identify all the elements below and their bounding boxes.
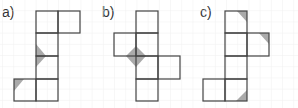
cube-nets-diagram xyxy=(0,0,298,108)
grid-background xyxy=(0,0,298,108)
